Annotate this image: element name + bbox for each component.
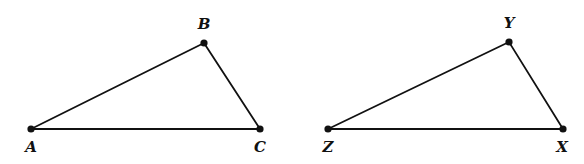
segment-YX — [509, 42, 563, 129]
vertex-label-A: A — [23, 138, 37, 156]
segment-BC — [204, 43, 260, 129]
vertex-point-A — [27, 125, 34, 132]
vertex-label-C: C — [254, 138, 266, 156]
segment-AB — [31, 43, 204, 129]
vertex-point-Y — [505, 38, 512, 45]
segment-ZY — [328, 42, 509, 129]
triangle-ABC: ABC — [23, 15, 266, 156]
vertex-point-C — [256, 125, 263, 132]
vertex-label-Z: Z — [322, 138, 335, 156]
vertex-label-Y: Y — [504, 14, 516, 32]
vertex-label-X: X — [555, 138, 569, 156]
triangle-ZYX: ZYX — [322, 14, 570, 156]
geometry-diagram: ABCZYX — [0, 0, 584, 164]
vertex-point-B — [200, 39, 207, 46]
vertex-point-Z — [324, 125, 331, 132]
vertex-label-B: B — [197, 15, 211, 33]
vertex-point-X — [559, 125, 566, 132]
